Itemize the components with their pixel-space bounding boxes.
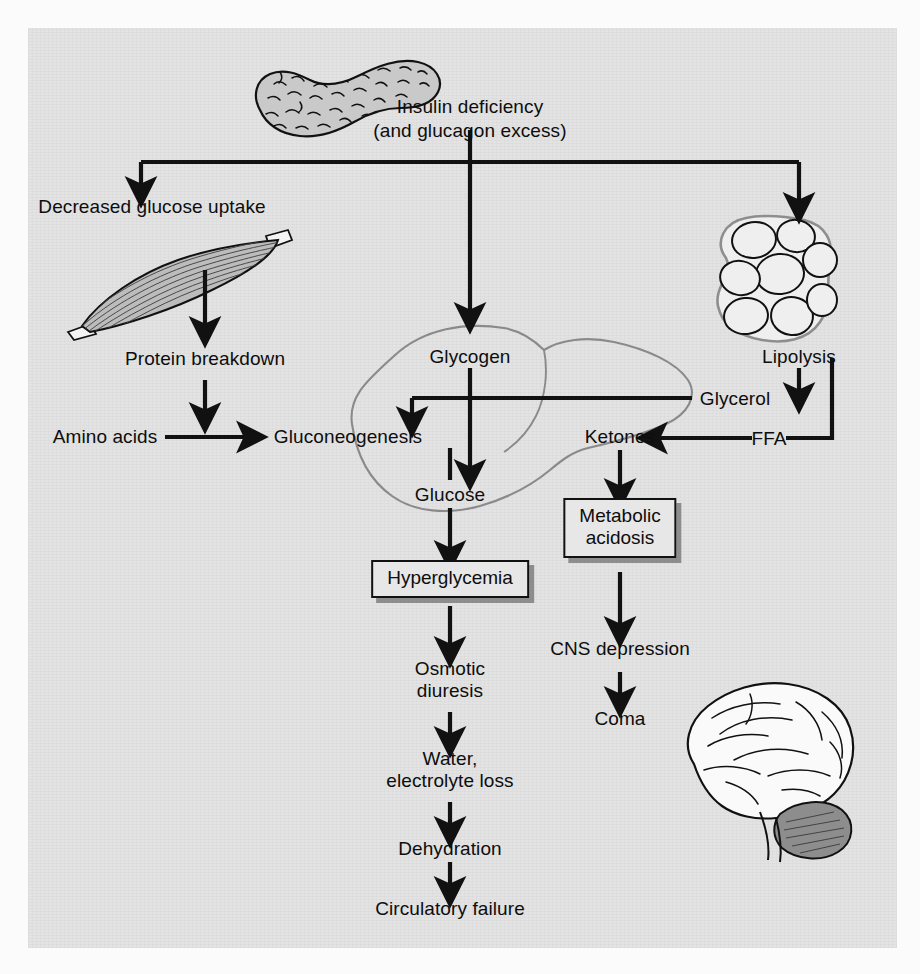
node-ffa: FFA — [751, 428, 786, 450]
figure-title-line2: (and glucagon excess) — [373, 120, 566, 142]
figure-page: Insulin deficiency (and glucagon excess)… — [0, 0, 920, 974]
node-amino-acids: Amino acids — [53, 426, 158, 448]
node-protein-breakdown: Protein breakdown — [125, 348, 285, 370]
node-cns-depression: CNS depression — [550, 638, 690, 660]
node-circulatory-failure: Circulatory failure — [375, 898, 525, 920]
node-glycerol: Glycerol — [700, 388, 770, 410]
node-decreased-glucose-uptake: Decreased glucose uptake — [38, 196, 265, 218]
node-metabolic-acidosis: Metabolic acidosis — [563, 498, 676, 558]
node-coma: Coma — [594, 708, 645, 730]
node-dehydration: Dehydration — [398, 838, 502, 860]
node-water-electrolyte-loss: Water, electrolyte loss — [386, 748, 513, 792]
node-gluconeogenesis: Gluconeogenesis — [274, 426, 422, 448]
node-glycogen: Glycogen — [429, 346, 510, 368]
node-lipolysis: Lipolysis — [762, 346, 836, 368]
node-glucose: Glucose — [415, 484, 485, 506]
node-osmotic-diuresis: Osmotic diuresis — [415, 658, 485, 702]
figure-title-line1: Insulin deficiency — [397, 96, 544, 118]
node-ketones: Ketones — [585, 426, 655, 448]
node-hyperglycemia: Hyperglycemia — [371, 560, 529, 598]
